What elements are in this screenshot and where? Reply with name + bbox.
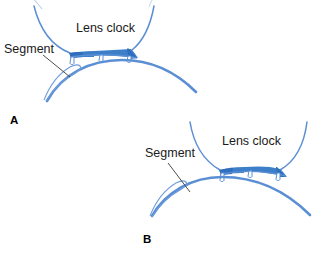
lens-clock-pin-left-a bbox=[70, 57, 74, 65]
lens-clock-segment-diagram: Lens clock Segment A bbox=[0, 0, 317, 253]
segment-label-b: Segment bbox=[145, 146, 196, 160]
segment-label-a: Segment bbox=[4, 42, 55, 56]
lens-clock-label-b: Lens clock bbox=[222, 134, 282, 148]
panel-letter-a: A bbox=[10, 114, 18, 126]
panel-letter-b: B bbox=[143, 233, 151, 245]
figure-background bbox=[0, 0, 317, 253]
lens-clock-pin-center-b bbox=[248, 171, 252, 178]
figure-container: Lens clock Segment A bbox=[0, 0, 317, 253]
lens-clock-pin-right-b bbox=[276, 173, 280, 181]
lens-clock-label-a: Lens clock bbox=[76, 21, 136, 35]
